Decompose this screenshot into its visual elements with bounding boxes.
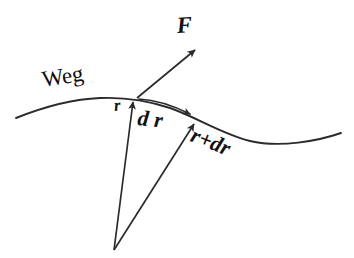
- path-curve-group: [16, 98, 341, 144]
- force-label: F: [176, 13, 193, 37]
- position-vector-label: r: [113, 96, 121, 114]
- force-vector-arrow: [137, 50, 195, 98]
- position-vector-r-group: [114, 102, 133, 250]
- path-curve: [16, 98, 341, 144]
- vector-diagram-svg: [0, 0, 354, 258]
- position-vector-r-plus-dr-arrow: [114, 124, 194, 250]
- displacement-label: d r: [137, 107, 164, 131]
- figure-canvas: Weg F r d r r+dr: [0, 0, 354, 258]
- force-vector-group: [137, 50, 195, 98]
- position-vector-r-plus-dr-group: [114, 124, 194, 250]
- position-vector-r-arrow: [114, 102, 133, 250]
